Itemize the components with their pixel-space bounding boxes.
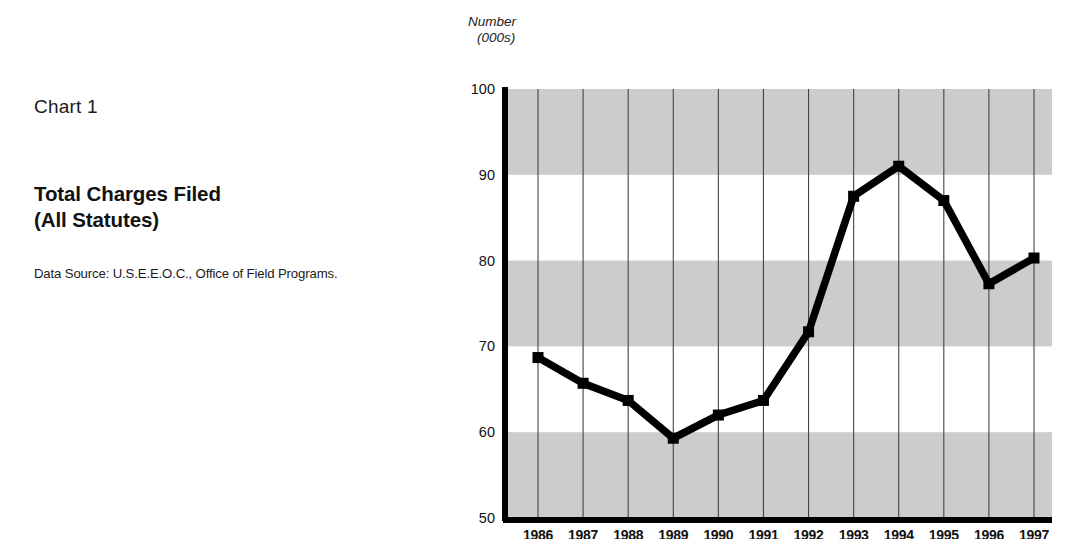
data-point-marker bbox=[893, 161, 904, 172]
data-point-marker bbox=[668, 433, 679, 444]
x-tick-label: 1997 bbox=[1019, 527, 1049, 539]
x-tick-label: 1992 bbox=[794, 527, 824, 539]
chart-title: Total Charges Filed (All Statutes) bbox=[34, 181, 434, 233]
data-point-marker bbox=[713, 410, 724, 421]
data-point-marker bbox=[578, 378, 589, 389]
x-tick-label: 1988 bbox=[613, 527, 643, 539]
chart-title-line-1: Total Charges Filed bbox=[34, 181, 434, 207]
y-tick-label: 60 bbox=[479, 424, 495, 440]
chart-caption-block: Chart 1 Total Charges Filed (All Statute… bbox=[34, 96, 434, 282]
x-tick-label: 1990 bbox=[703, 527, 733, 539]
chart-band bbox=[507, 261, 1052, 347]
chart-band bbox=[507, 432, 1052, 518]
y-tick-label: 50 bbox=[479, 510, 495, 526]
x-tick-label-group: 1986198719881989199019911992199319941995… bbox=[523, 527, 1049, 539]
data-point-marker bbox=[533, 352, 544, 363]
x-tick-label: 1994 bbox=[884, 527, 914, 539]
y-tick-label: 70 bbox=[479, 338, 495, 354]
chart-region: Number (000s) 5060708090100 198619871988… bbox=[440, 14, 1070, 539]
data-point-marker bbox=[983, 278, 994, 289]
data-point-marker bbox=[848, 191, 859, 202]
x-tick-label: 1989 bbox=[658, 527, 688, 539]
y-tick-label: 80 bbox=[479, 253, 495, 269]
data-point-marker bbox=[623, 395, 634, 406]
x-tick-label: 1996 bbox=[974, 527, 1004, 539]
x-tick-label: 1991 bbox=[748, 527, 778, 539]
chart-title-line-2: (All Statutes) bbox=[34, 207, 434, 233]
data-source-note: Data Source: U.S.E.E.O.C., Office of Fie… bbox=[34, 265, 434, 282]
x-tick-label: 1986 bbox=[523, 527, 553, 539]
x-tick-label: 1995 bbox=[929, 527, 959, 539]
data-point-marker bbox=[1029, 253, 1040, 264]
y-tick-label-group: 5060708090100 bbox=[471, 81, 495, 526]
line-chart-svg: 5060708090100 19861987198819891990199119… bbox=[440, 14, 1070, 539]
y-tick-label: 90 bbox=[479, 167, 495, 183]
horizontal-band-group bbox=[507, 89, 1052, 518]
plot-area: 5060708090100 19861987198819891990199119… bbox=[440, 14, 1070, 539]
x-tick-label: 1987 bbox=[568, 527, 598, 539]
y-tick-label: 100 bbox=[471, 81, 495, 97]
x-tick-label: 1993 bbox=[839, 527, 869, 539]
chart-band bbox=[507, 89, 1052, 175]
chart-number-label: Chart 1 bbox=[34, 96, 434, 119]
data-point-marker bbox=[803, 326, 814, 337]
data-point-marker bbox=[758, 395, 769, 406]
data-point-marker bbox=[938, 195, 949, 206]
